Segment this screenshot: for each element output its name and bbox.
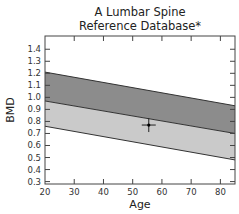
y-tick-label: 1.3 — [27, 56, 41, 66]
y-tick-label: 0.3 — [27, 177, 41, 187]
y-tick-label: 0.8 — [27, 116, 41, 126]
y-tick-label: 0.5 — [27, 153, 41, 163]
y-tick-label: 1.4 — [27, 44, 41, 54]
x-tick-label: 70 — [186, 187, 197, 197]
reference-bands — [45, 72, 235, 160]
y-tick-label: 0.6 — [27, 140, 41, 150]
x-tick-label: 20 — [40, 187, 51, 197]
y-tick-label: 1.1 — [27, 80, 41, 90]
y-tick-label: 0.4 — [27, 165, 41, 175]
chart: A Lumbar Spine Reference Database* 20304… — [0, 0, 239, 214]
chart-title-line-2: Reference Database* — [79, 19, 201, 33]
x-axis-label: Age — [129, 198, 151, 211]
x-tick-label: 40 — [98, 187, 109, 197]
chart-title: A Lumbar Spine Reference Database* — [79, 5, 201, 33]
x-tick-label: 30 — [69, 187, 80, 197]
y-axis-label: BMD — [4, 97, 17, 123]
x-tick-label: 60 — [157, 187, 168, 197]
y-tick-label: 0.9 — [27, 104, 41, 114]
plot-area: 20304050607080 0.30.40.50.60.70.80.91.01… — [27, 36, 235, 197]
y-tick-label: 1.2 — [27, 68, 41, 78]
x-tick-label: 50 — [127, 187, 138, 197]
y-tick-label: 1.0 — [27, 92, 41, 102]
x-tick-label: 80 — [215, 187, 226, 197]
y-tick-label: 0.7 — [27, 128, 41, 138]
chart-title-line-1: A Lumbar Spine — [94, 5, 185, 19]
